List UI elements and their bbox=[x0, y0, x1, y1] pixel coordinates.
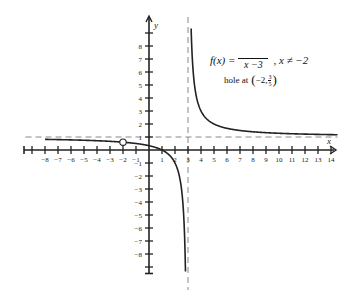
x-axis-label: x bbox=[326, 136, 331, 146]
x-tick-label: 1 bbox=[160, 156, 164, 164]
y-tick-label: 6 bbox=[139, 69, 143, 77]
y-tick-label: −5 bbox=[135, 212, 143, 220]
hole-annotation: hole at ( −2, 3 5 ) bbox=[224, 72, 277, 88]
hole-x: −2, bbox=[256, 75, 268, 85]
x-tick-label: 14 bbox=[328, 156, 336, 164]
y-tick-label: −3 bbox=[135, 186, 143, 194]
curve-left-branch bbox=[45, 139, 185, 271]
function-condition: , x ≠ −2 bbox=[273, 54, 308, 66]
graph-figure: −8−7−6−5−4−3−2−1123456789101112131487654… bbox=[0, 0, 351, 305]
y-tick-label: −6 bbox=[135, 225, 143, 233]
y-tick-label: −2 bbox=[135, 173, 143, 181]
y-tick-label: 3 bbox=[139, 108, 143, 116]
function-formula: f(x) = x −3 , x ≠ −2 bbox=[210, 48, 308, 71]
x-tick-label: −6 bbox=[67, 156, 75, 164]
function-denominator: x −3 bbox=[244, 59, 263, 71]
x-tick-label: 6 bbox=[225, 156, 229, 164]
x-tick-label: 12 bbox=[302, 156, 310, 164]
x-tick-label: −2 bbox=[119, 156, 127, 164]
hole-y-fraction: 3 5 bbox=[268, 74, 271, 87]
x-tick-label: 7 bbox=[238, 156, 242, 164]
y-tick-label: −4 bbox=[135, 199, 143, 207]
x-tick-label: 5 bbox=[212, 156, 216, 164]
y-tick-label: 1 bbox=[139, 134, 143, 142]
y-tick-label: 4 bbox=[139, 95, 143, 103]
x-tick-label: 3 bbox=[186, 156, 190, 164]
x-tick-label: −5 bbox=[80, 156, 88, 164]
x-tick-label: 10 bbox=[276, 156, 284, 164]
x-tick-label: 9 bbox=[264, 156, 268, 164]
x-tick-label: −7 bbox=[54, 156, 62, 164]
function-name: f(x) = bbox=[210, 54, 235, 66]
x-tick-label: 4 bbox=[199, 156, 203, 164]
x-tick-label: 8 bbox=[251, 156, 255, 164]
y-tick-label: −1 bbox=[135, 160, 143, 168]
y-tick-label: −7 bbox=[135, 238, 143, 246]
y-axis-label: y bbox=[153, 20, 158, 30]
function-fraction: x −3 bbox=[238, 48, 268, 71]
x-tick-label: −8 bbox=[41, 156, 49, 164]
y-tick-label: −8 bbox=[135, 251, 143, 259]
x-tick-label: −4 bbox=[93, 156, 101, 164]
y-tick-label: 7 bbox=[139, 56, 143, 64]
y-tick-label: 8 bbox=[139, 43, 143, 51]
x-tick-label: 11 bbox=[289, 156, 296, 164]
hole-marker bbox=[120, 139, 126, 145]
close-paren: ) bbox=[272, 72, 276, 88]
function-numerator bbox=[238, 48, 268, 59]
y-tick-label: 2 bbox=[139, 121, 143, 129]
hole-y-den: 5 bbox=[268, 81, 271, 87]
x-tick-label: −3 bbox=[106, 156, 114, 164]
hole-label: hole at bbox=[224, 75, 248, 85]
hole-y-num: 3 bbox=[268, 74, 271, 81]
y-tick-label: 5 bbox=[139, 82, 143, 90]
plot-area: −8−7−6−5−4−3−2−1123456789101112131487654… bbox=[0, 0, 351, 305]
x-tick-label: 13 bbox=[315, 156, 323, 164]
